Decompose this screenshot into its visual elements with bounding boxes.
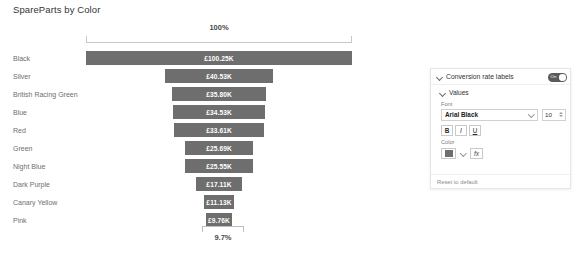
reset-to-default-link[interactable]: Reset to default [437,179,478,185]
values-section-header[interactable]: Values [431,85,572,98]
chevron-down-icon[interactable] [528,112,534,118]
funnel-row[interactable]: Canary Yellow £11.13K [0,194,400,211]
color-controls-row: fx [431,146,572,159]
toggle-knob [559,74,566,81]
funnel-row[interactable]: Night Blue £25.55K [0,158,400,175]
category-label: Night Blue [13,163,45,170]
font-size-value: 10 [545,111,552,118]
category-label: British Racing Green [13,91,78,98]
pane-body: Values Font Arial Black 10 B I U Color [431,85,572,159]
funnel-bar[interactable]: £25.69K [185,141,253,155]
font-family-select[interactable]: Arial Black [441,109,538,121]
category-label: Red [13,127,26,134]
funnel-bar[interactable]: £17.11K [196,177,241,191]
format-pane[interactable]: Conversion rate labels On Values Font Ar… [430,68,571,189]
font-field-label: Font [431,98,572,109]
bar-track: £40.53K [86,68,352,85]
bar-value-label: £100.25K [204,55,233,62]
funnel-row[interactable]: Blue £34.53K [0,104,400,121]
category-label: Canary Yellow [13,199,57,206]
bar-value-label: £9.76K [208,217,230,224]
funnel-row[interactable]: Green £25.69K [0,140,400,157]
bar-value-label: £11.13K [206,199,231,206]
reset-row: Reset to default [431,174,572,188]
bar-value-label: £40.53K [206,73,232,80]
bar-value-label: £25.69K [206,145,232,152]
bar-value-label: £33.61K [206,127,232,134]
category-label: Silver [13,73,31,80]
funnel-bar[interactable]: £100.25K [86,51,352,65]
color-field-label: Color [431,136,572,147]
funnel-bar[interactable]: £11.13K [204,195,234,209]
bar-track: £25.69K [86,140,352,157]
font-controls-row: Arial Black 10 [431,109,572,121]
bold-button[interactable]: B [441,125,453,136]
category-label: Green [13,145,32,152]
top-bracket-indicator [86,36,352,43]
funnel-row[interactable]: Pink £9.76K [0,212,400,229]
category-label: Black [13,55,30,62]
chevron-down-icon[interactable] [439,89,446,96]
underline-button[interactable]: U [469,125,481,136]
category-label: Dark Purple [13,181,50,188]
font-style-buttons: B I U [431,121,572,136]
bottom-percentage-annotation: 9.7% [182,233,264,242]
conversion-rate-labels-toggle[interactable]: On [548,73,567,82]
bar-track: £33.61K [86,122,352,139]
stepper-arrows-icon[interactable] [559,112,563,117]
funnel-row[interactable]: Silver £40.53K [0,68,400,85]
category-label: Pink [13,217,27,224]
category-label: Blue [13,109,27,116]
values-section-title: Values [449,89,469,96]
conversion-rate-labels-header[interactable]: Conversion rate labels On [431,69,572,85]
bar-value-label: £25.55K [206,163,232,170]
bar-track: £34.53K [86,104,352,121]
funnel-row[interactable]: Black £100.25K [0,50,400,67]
funnel-chart-visual[interactable]: SpareParts by Color 100% Black £100.25K … [0,0,400,257]
bar-value-label: £34.53K [206,109,232,116]
top-percentage-annotation: 100% [86,23,352,32]
bar-value-label: £17.11K [206,181,231,188]
color-swatch [445,150,453,157]
funnel-row[interactable]: Red £33.61K [0,122,400,139]
bar-track: £11.13K [86,194,352,211]
funnel-bar[interactable]: £40.53K [165,69,272,83]
conditional-formatting-fx-button[interactable]: fx [470,148,483,159]
funnel-row[interactable]: British Racing Green £35.80K [0,86,400,103]
pane-header-title: Conversion rate labels [446,73,514,80]
screenshot-root: SpareParts by Color 100% Black £100.25K … [0,0,578,257]
bar-track: £17.11K [86,176,352,193]
chevron-down-icon[interactable] [459,148,467,159]
bar-track: £25.55K [86,158,352,175]
funnel-bar[interactable]: £25.55K [185,159,253,173]
italic-button[interactable]: I [455,125,467,136]
bar-value-label: £35.80K [206,91,232,98]
funnel-bar[interactable]: £34.53K [173,105,265,119]
bar-track: £100.25K [86,50,352,67]
toggle-state-label: On [551,75,557,79]
funnel-bar[interactable]: £35.80K [172,87,267,101]
font-size-stepper[interactable]: 10 [542,109,566,121]
color-picker-button[interactable] [441,148,456,159]
font-family-value: Arial Black [445,111,478,118]
funnel-row[interactable]: Dark Purple £17.11K [0,176,400,193]
chevron-down-icon[interactable] [436,73,443,80]
chart-title: SpareParts by Color [13,4,100,15]
bar-track: £35.80K [86,86,352,103]
funnel-bar[interactable]: £33.61K [174,123,263,137]
funnel-plot-area: 100% Black £100.25K Silver £40.53K [0,20,400,257]
bottom-bracket-indicator [202,226,244,232]
